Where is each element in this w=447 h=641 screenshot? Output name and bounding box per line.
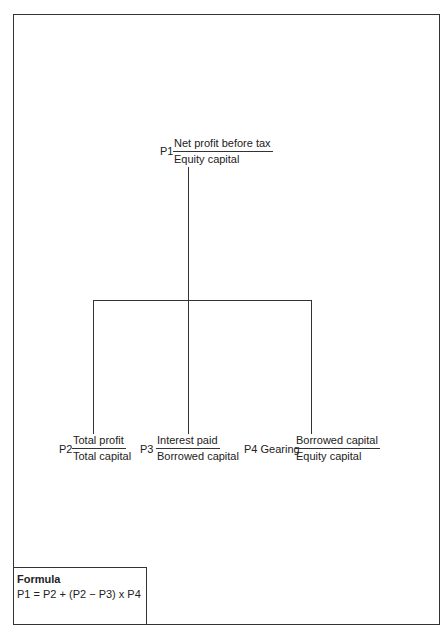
p4-numerator: Borrowed capital [295, 434, 380, 449]
connector-trunk [188, 167, 189, 301]
p3-fraction: Interest paid Borrowed capital [156, 434, 241, 463]
p1-denominator: Equity capital [173, 152, 241, 166]
p2-code: P2 [59, 443, 72, 455]
p4-fraction: Borrowed capital Equity capital [295, 434, 380, 463]
p2-numerator: Total profit [72, 434, 126, 449]
p2-fraction: Total profit Total capital [72, 434, 133, 463]
formula-expression: P1 = P2 + (P2 − P3) x P4 [17, 588, 142, 600]
p4-denominator: Equity capital [295, 449, 363, 463]
diagram-frame [13, 14, 440, 625]
p4-code: P4 Gearing [244, 443, 300, 455]
formula-title: Formula [17, 573, 142, 585]
p1-numerator: Net profit before tax [173, 137, 273, 152]
p1-fraction: Net profit before tax Equity capital [173, 137, 273, 166]
connector-p4 [311, 300, 312, 434]
p1-code: P1 [160, 145, 173, 157]
connector-bar [93, 300, 312, 301]
p3-denominator: Borrowed capital [156, 449, 241, 463]
connector-p2 [93, 300, 94, 434]
p3-numerator: Interest paid [156, 434, 220, 449]
connector-p3 [188, 300, 189, 434]
p3-code: P3 [140, 443, 153, 455]
formula-box: Formula P1 = P2 + (P2 − P3) x P4 [13, 567, 147, 625]
p2-denominator: Total capital [72, 449, 133, 463]
